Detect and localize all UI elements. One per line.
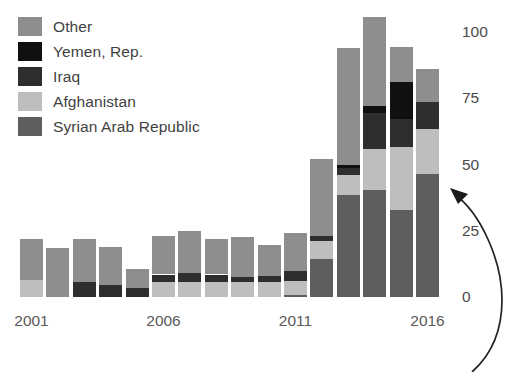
x-axis-tick-label: 2016	[410, 313, 444, 329]
bar-2007[interactable]	[178, 231, 201, 297]
bar-segment	[390, 147, 413, 209]
bar-2002[interactable]	[46, 248, 69, 297]
x-axis-tick-label: 2001	[14, 313, 48, 329]
y-axis-tick-label: 0	[462, 289, 471, 305]
bar-segment	[178, 282, 201, 297]
bar-segment	[390, 210, 413, 297]
bar-segment	[258, 276, 281, 283]
bar-segment	[99, 247, 122, 285]
bar-segment	[178, 273, 201, 282]
bar-segment	[99, 285, 122, 297]
bar-segment	[363, 190, 386, 297]
bar-segment	[126, 288, 149, 297]
bar-segment	[152, 275, 175, 283]
y-axis-tick-label: 75	[462, 91, 479, 107]
bar-segment	[231, 277, 254, 282]
bar-2014[interactable]	[363, 17, 386, 297]
bar-segment	[258, 245, 281, 275]
y-axis-tick-label: 25	[462, 223, 479, 239]
bar-segment	[20, 239, 43, 280]
bar-2008[interactable]	[205, 239, 228, 297]
plot-area: 02550751002001200620112016	[0, 0, 512, 372]
bar-2010[interactable]	[258, 245, 281, 297]
bar-segment	[231, 282, 254, 297]
bar-2009[interactable]	[231, 237, 254, 297]
bar-segment	[310, 159, 333, 236]
bar-segment	[337, 168, 360, 175]
bar-segment	[363, 17, 386, 106]
bar-segment	[126, 269, 149, 288]
bar-2001[interactable]	[20, 239, 43, 297]
bar-2006[interactable]	[152, 236, 175, 297]
bar-segment	[363, 149, 386, 190]
bar-segment	[390, 47, 413, 83]
bar-segment	[152, 282, 175, 297]
bar-segment	[390, 82, 413, 119]
bar-2011[interactable]	[284, 233, 307, 297]
bar-2013[interactable]	[337, 48, 360, 297]
x-axis-tick-label: 2011	[279, 313, 312, 329]
bar-segment	[73, 239, 96, 283]
bar-2012[interactable]	[310, 159, 333, 297]
bar-segment	[284, 281, 307, 296]
bar-2015[interactable]	[390, 47, 413, 297]
bar-segment	[73, 282, 96, 297]
bar-segment	[416, 174, 439, 297]
bar-segment	[310, 259, 333, 297]
chart-figure: OtherYemen, Rep.IraqAfghanistanSyrian Ar…	[0, 0, 512, 372]
bar-segment	[390, 119, 413, 147]
bar-segment	[416, 102, 439, 129]
bar-segment	[205, 275, 228, 283]
bar-2016[interactable]	[416, 69, 439, 297]
bar-2004[interactable]	[99, 247, 122, 297]
bar-segment	[337, 165, 360, 169]
bar-segment	[337, 48, 360, 165]
bar-segment	[20, 280, 43, 297]
y-axis-tick-label: 50	[462, 157, 479, 173]
bar-segment	[231, 237, 254, 277]
bar-segment	[46, 248, 69, 297]
bar-segment	[310, 241, 333, 258]
bar-segment	[284, 233, 307, 271]
bar-segment	[363, 113, 386, 149]
bar-segment	[258, 282, 281, 297]
bar-segment	[363, 106, 386, 113]
bar-segment	[337, 195, 360, 297]
bar-segment	[284, 295, 307, 297]
bar-segment	[205, 239, 228, 275]
bar-segment	[310, 236, 333, 241]
bar-segment	[284, 271, 307, 280]
bar-segment	[152, 236, 175, 274]
bar-segment	[337, 175, 360, 195]
bar-segment	[416, 69, 439, 102]
x-axis-tick-label: 2006	[146, 313, 180, 329]
y-axis-tick-label: 100	[462, 24, 488, 40]
bar-segment	[178, 231, 201, 273]
bar-segment	[205, 282, 228, 297]
bar-2003[interactable]	[73, 239, 96, 297]
bar-2005[interactable]	[126, 269, 149, 297]
bar-segment	[416, 129, 439, 174]
